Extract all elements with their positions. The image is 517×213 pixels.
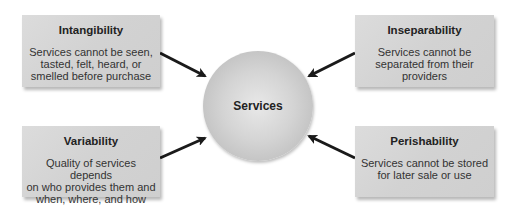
intangibility-title: Intangibility	[22, 24, 160, 37]
intangibility-box: Intangibility Services cannot be seen, t…	[22, 15, 160, 87]
arrow-variability-to-services	[160, 138, 205, 158]
variability-description: Quality of services depends on who provi…	[22, 157, 160, 205]
perishability-description: Services cannot be stored for later sale…	[355, 157, 494, 181]
services-label: Services	[233, 99, 282, 113]
services-circle: Services	[203, 51, 313, 161]
arrow-inseparability-to-services	[309, 53, 355, 76]
inseparability-box: Inseparability Services cannot be separa…	[355, 15, 494, 87]
arrow-perishability-to-services	[309, 136, 355, 158]
variability-box: Variability Quality of services depends …	[22, 126, 160, 197]
perishability-title: Perishability	[355, 135, 494, 148]
arrow-intangibility-to-services	[160, 53, 205, 76]
variability-title: Variability	[22, 135, 160, 148]
inseparability-title: Inseparability	[355, 24, 494, 37]
intangibility-description: Services cannot be seen, tasted, felt, h…	[22, 46, 160, 82]
inseparability-description: Services cannot be separated from their …	[355, 46, 494, 82]
perishability-box: Perishability Services cannot be stored …	[355, 126, 494, 197]
